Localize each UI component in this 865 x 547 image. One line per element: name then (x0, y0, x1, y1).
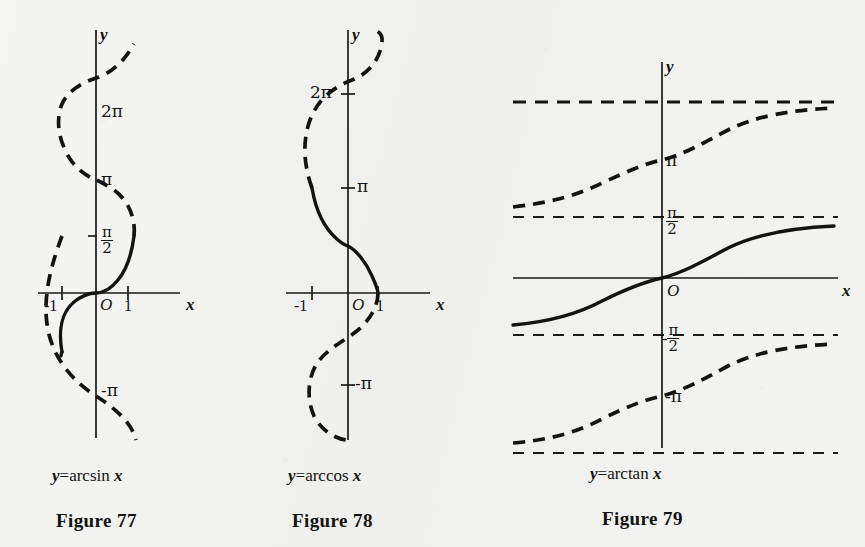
arccos-branch-lower-dashed (309, 293, 378, 440)
figure-number-caption: Figure 79 (602, 508, 683, 530)
figure-arccos: y x O -1 1 2π π -π y=arccos x Figure 78 (258, 0, 490, 547)
equation-function: arctan (607, 464, 649, 483)
figure-arctan: y x O π π 2 - π 2 -π y=arctan x Figure 7… (490, 0, 865, 547)
origin-label: O (667, 282, 679, 299)
figure-number-caption: Figure 77 (56, 510, 137, 532)
equation-equals: = (60, 466, 70, 485)
x-tick-label-minus1: -1 (44, 298, 57, 314)
equation-variable-x: x (653, 464, 662, 483)
y-axis-label: y (666, 58, 674, 75)
equation-function: arccos (305, 466, 348, 485)
figure-equation-caption: y=arcsin x (52, 466, 122, 486)
arctan-branch-principal-solid (513, 226, 834, 325)
equation-variable-y: y (590, 464, 598, 483)
y-tick-label-minus-pi: -π (665, 388, 682, 405)
y-tick-label-pi: π (357, 178, 368, 195)
fraction-numerator: π (667, 323, 679, 338)
equation-variable-y: y (288, 466, 296, 485)
origin-label: O (352, 296, 364, 313)
y-tick-label-pi: π (666, 152, 677, 169)
fraction-denominator: 2 (666, 221, 678, 237)
arccos-branch-principal-solid (312, 188, 378, 293)
equation-variable-y: y (52, 466, 60, 485)
y-tick-label-minus-pi: -π (355, 375, 372, 392)
figure-equation-caption: y=arctan x (590, 464, 661, 484)
y-tick-label-minus-pi: -π (101, 382, 118, 399)
equation-equals: = (296, 466, 306, 485)
fraction-denominator: 2 (101, 240, 113, 256)
x-axis-label: x (842, 282, 851, 299)
y-tick-label-2pi: 2π (101, 103, 123, 120)
figure-arcsin: y x O -1 1 2π π π 2 -π y=arcsin x Figure… (0, 0, 258, 547)
arccos-plot (258, 0, 490, 470)
x-axis-label: x (436, 296, 445, 313)
arcsin-plot (0, 0, 258, 470)
equation-variable-x: x (114, 466, 123, 485)
x-axis-label: x (186, 296, 195, 313)
fraction-numerator: π (666, 206, 678, 221)
y-tick-label-pi-over-2: π 2 (666, 205, 678, 238)
arccos-branch-upper-dashed (305, 30, 382, 188)
y-tick-label-pi-over-2: π 2 (101, 224, 113, 257)
equation-equals: = (598, 464, 608, 483)
x-tick-label-1: 1 (124, 298, 132, 314)
fraction-numerator: π (101, 225, 113, 240)
figure-number-caption: Figure 78 (292, 510, 373, 532)
x-tick-label-minus1: -1 (294, 298, 307, 314)
y-axis-label: y (100, 26, 108, 43)
equation-variable-x: x (353, 466, 362, 485)
origin-label: O (100, 296, 112, 313)
fraction-denominator: 2 (667, 338, 679, 354)
figure-equation-caption: y=arccos x (288, 466, 361, 486)
x-tick-label-1: 1 (376, 298, 384, 314)
y-axis-label: y (352, 26, 360, 43)
equation-function: arcsin (69, 466, 110, 485)
y-tick-label-minus-pi-over-2: - π 2 (662, 323, 679, 355)
arcsin-branch-principal-solid (61, 236, 135, 352)
y-tick-label-pi: π (101, 171, 112, 188)
arcsin-principal-tail (61, 352, 62, 356)
y-tick-label-2pi: 2π (310, 84, 332, 101)
